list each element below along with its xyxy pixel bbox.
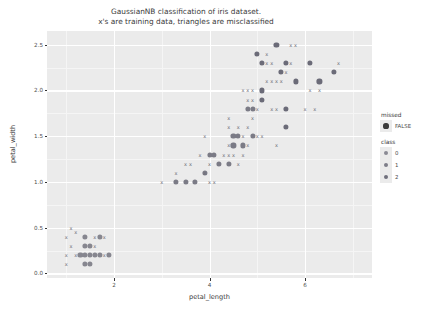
data-point [212, 152, 217, 157]
gridline-y-major [47, 228, 372, 229]
data-point [97, 234, 102, 239]
gridline-y-major [47, 90, 372, 91]
data-point [87, 243, 92, 248]
y-tick-mark [45, 90, 48, 91]
training-x-mark: x [270, 79, 273, 84]
training-x-mark: x [265, 79, 268, 84]
legend-label: 2 [395, 174, 398, 180]
training-x-mark: x [93, 234, 96, 239]
data-point [283, 60, 288, 65]
training-x-mark: x [294, 42, 297, 47]
y-tick-mark [45, 182, 48, 183]
legend-label: 0 [395, 150, 398, 156]
y-tick-label: 0.0 [15, 270, 43, 276]
legend-dot-icon [384, 151, 388, 155]
training-x-mark: x [208, 161, 211, 166]
training-x-mark: x [213, 179, 216, 184]
legend-item[interactable]: 1 [380, 159, 429, 171]
training-x-mark: x [246, 143, 249, 148]
gridline-x-major [114, 31, 115, 278]
legend-key-swatch [380, 159, 392, 171]
training-x-mark: x [189, 161, 192, 166]
training-x-mark: x [227, 115, 230, 120]
legend-item[interactable]: FALSE [380, 120, 429, 132]
scatter-plot-figure: GaussianNB classification of iris datase… [0, 0, 429, 313]
data-point [83, 234, 88, 239]
x-tick-mark [114, 278, 115, 281]
gridline-y-major [47, 273, 372, 274]
training-x-mark: x [275, 143, 278, 148]
training-x-mark: x [69, 225, 72, 230]
legend-group-missed: missedFALSE [380, 112, 429, 132]
legend-label: 1 [395, 162, 398, 168]
training-x-mark: x [65, 253, 68, 258]
y-tick-mark [45, 228, 48, 229]
data-point [293, 79, 298, 84]
legend-key-swatch [380, 147, 392, 159]
legend-item[interactable]: 0 [380, 147, 429, 159]
data-point [274, 42, 279, 47]
data-point [87, 262, 92, 267]
training-x-mark: x [251, 97, 254, 102]
legend-item[interactable]: 2 [380, 171, 429, 183]
gridline-y-major [47, 45, 372, 46]
data-point [216, 161, 221, 166]
training-x-mark: x [241, 152, 244, 157]
plot-panel: xxxxxxxxxxxxxxxxxxxxxxxxxxxxxxxxxxxxxxxx… [47, 31, 372, 278]
training-x-mark: x [256, 134, 259, 139]
data-point [283, 124, 288, 129]
plot-title-line2: x's are training data, triangles are mis… [0, 17, 372, 27]
training-x-mark: x [74, 230, 77, 235]
training-x-mark: x [251, 115, 254, 120]
data-point [107, 253, 112, 258]
training-x-mark: x [203, 134, 206, 139]
training-x-mark: x [241, 88, 244, 93]
data-point [283, 106, 288, 111]
training-x-mark: x [289, 61, 292, 66]
training-x-mark: x [251, 88, 254, 93]
training-x-mark: x [227, 143, 230, 148]
y-tick-label: 0.5 [15, 225, 43, 231]
training-x-mark: x [246, 125, 249, 130]
data-point [331, 70, 336, 75]
data-point [279, 70, 284, 75]
training-x-mark: x [103, 234, 106, 239]
data-point [250, 106, 255, 111]
x-tick-label: 2 [104, 282, 124, 288]
data-point [193, 179, 198, 184]
training-x-mark: x [246, 97, 249, 102]
training-x-mark: x [69, 243, 72, 248]
training-x-mark: x [275, 79, 278, 84]
y-tick-mark [45, 136, 48, 137]
y-tick-label: 2.5 [15, 42, 43, 48]
x-tick-mark [305, 278, 306, 281]
training-x-mark: x [208, 179, 211, 184]
training-x-mark: x [237, 125, 240, 130]
training-x-mark: x [246, 88, 249, 93]
x-tick-label: 6 [295, 282, 315, 288]
gridline-y-major [47, 136, 372, 137]
y-tick-mark [45, 273, 48, 274]
training-x-mark: x [256, 106, 259, 111]
training-x-mark: x [65, 262, 68, 267]
gridline-x-major [305, 31, 306, 278]
training-x-mark: x [237, 161, 240, 166]
legend-key-swatch [380, 120, 392, 132]
training-x-mark: x [198, 152, 201, 157]
plot-title: GaussianNB classification of iris datase… [0, 7, 372, 27]
training-x-mark: x [184, 161, 187, 166]
y-axis-title: petal_width [9, 114, 17, 174]
y-tick-label: 2.0 [15, 87, 43, 93]
legend-panel: missedFALSEclass012 [380, 112, 429, 190]
y-tick-mark [45, 45, 48, 46]
legend-dot-icon [383, 123, 388, 128]
data-point [231, 143, 236, 148]
training-x-mark: x [227, 152, 230, 157]
training-x-mark: x [232, 152, 235, 157]
training-x-mark: x [74, 253, 77, 258]
data-point [259, 97, 264, 102]
training-x-mark: x [261, 61, 264, 66]
data-point [307, 60, 312, 65]
training-x-mark: x [93, 243, 96, 248]
y-tick-label: 1.0 [15, 179, 43, 185]
